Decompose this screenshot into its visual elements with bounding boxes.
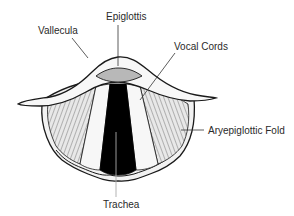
label-aryepiglottic-fold: Aryepiglottic Fold — [208, 125, 285, 136]
larynx-diagram: Epiglottis Vallecula Vocal Cords Aryepig… — [0, 0, 294, 216]
label-epiglottis: Epiglottis — [106, 11, 147, 22]
label-vallecula: Vallecula — [38, 25, 78, 36]
label-vocal-cords: Vocal Cords — [174, 41, 228, 52]
label-trachea: Trachea — [103, 199, 139, 210]
vallecula-leader — [72, 38, 88, 58]
